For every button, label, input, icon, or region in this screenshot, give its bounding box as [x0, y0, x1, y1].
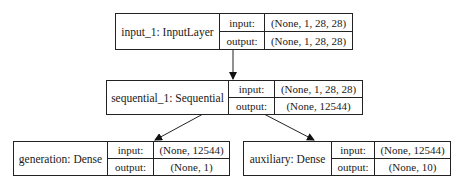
output-label: output:	[332, 159, 374, 175]
input-shape: (None, 1, 28, 28)	[275, 81, 362, 98]
input-shape: (None, 12544)	[375, 142, 450, 159]
output-shape: (None, 1)	[154, 159, 229, 175]
node-auxiliary-dense: auxiliary: Dense input: output: (None, 1…	[243, 141, 451, 176]
output-shape: (None, 1, 28, 28)	[265, 32, 352, 49]
output-shape: (None, 12544)	[275, 98, 362, 114]
output-label: output:	[108, 159, 153, 175]
node-name: generation: Dense	[14, 142, 108, 175]
input-label: input:	[229, 81, 274, 98]
node-name: auxiliary: Dense	[244, 142, 332, 175]
node-input-layer: input_1: InputLayer input: output: (None…	[115, 13, 353, 50]
input-shape: (None, 1, 28, 28)	[265, 14, 352, 32]
input-label: input:	[332, 142, 374, 159]
output-label: output:	[220, 32, 264, 49]
input-shape: (None, 12544)	[154, 142, 229, 159]
output-shape: (None, 10)	[375, 159, 450, 175]
input-label: input:	[220, 14, 264, 32]
edge-sequential-to-auxiliary	[264, 114, 314, 140]
node-generation-dense: generation: Dense input: output: (None, …	[13, 141, 230, 176]
edge-sequential-to-generation	[155, 114, 203, 140]
output-label: output:	[229, 98, 274, 114]
node-name: input_1: InputLayer	[116, 14, 220, 49]
input-label: input:	[108, 142, 153, 159]
node-name: sequential_1: Sequential	[107, 81, 229, 114]
node-sequential: sequential_1: Sequential input: output: …	[106, 80, 363, 115]
